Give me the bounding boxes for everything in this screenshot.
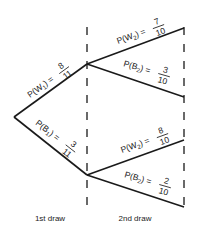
label-p-w2-upper: P(W2) = 7 10 [114, 15, 168, 52]
label-p-w1: P(W1) = 8 11 [22, 58, 75, 104]
stage-label-2nd-draw: 2nd draw [119, 214, 152, 223]
label-p-b2-upper: P(B2) = 3 10 [121, 54, 173, 87]
stage-label-1st-draw: 1st draw [35, 214, 65, 223]
label-p-b1: P(B1) = 3 11 [30, 114, 82, 161]
svg-text:10: 10 [157, 74, 169, 86]
svg-text:P(B2) =: P(B2) = [122, 58, 152, 76]
svg-text:7: 7 [153, 16, 161, 27]
svg-text:3: 3 [162, 64, 170, 75]
svg-text:P(B1) =: P(B1) = [33, 118, 62, 144]
label-p-b2-lower: P(B2) = 2 10 [122, 165, 174, 198]
svg-text:P(W1) =: P(W1) = [25, 74, 56, 101]
probability-tree-diagram: P(W1) = 8 11 P(B1) = 3 11 P(W2) = 7 10 P… [0, 0, 198, 235]
svg-text:8: 8 [157, 125, 165, 136]
svg-text:2: 2 [163, 175, 171, 186]
svg-text:10: 10 [158, 185, 170, 197]
svg-text:P(B2) =: P(B2) = [123, 169, 153, 187]
branch-w1 [14, 64, 87, 117]
svg-text:10: 10 [154, 25, 167, 38]
